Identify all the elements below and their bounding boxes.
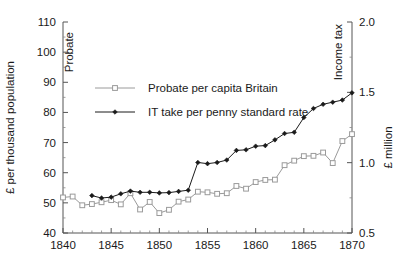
x-tick-label: 1850 (147, 239, 173, 251)
y2-tick-label: 1.0 (359, 157, 375, 169)
data-point-marker (330, 161, 335, 166)
data-point-marker (195, 189, 200, 194)
annotation-0: Probate (63, 32, 75, 72)
y-tick-label: 70 (43, 137, 56, 149)
data-point-marker (215, 191, 220, 196)
data-point-marker (321, 102, 326, 107)
data-point-marker (253, 180, 258, 185)
data-point-marker (253, 144, 258, 149)
data-point-marker (138, 207, 143, 212)
data-point-marker (147, 200, 152, 205)
data-point-marker (244, 148, 249, 153)
data-point-marker (90, 193, 95, 198)
data-point-marker (273, 177, 278, 182)
data-point-marker (234, 184, 239, 189)
y2-tick-label: 0.5 (359, 227, 375, 239)
data-point-marker (205, 161, 210, 166)
data-point-marker (321, 150, 326, 155)
data-point-marker (244, 186, 249, 191)
legend-marker-1 (113, 110, 118, 115)
data-point-marker (157, 211, 162, 216)
data-point-marker (157, 191, 162, 196)
y2-tick-label: 1.5 (359, 86, 375, 98)
data-point-marker (205, 190, 210, 195)
data-point-marker (330, 100, 335, 105)
data-point-marker (340, 139, 345, 144)
y-tick-label: 50 (43, 197, 56, 209)
data-point-marker (186, 188, 191, 193)
x-tick-label: 1855 (195, 239, 221, 251)
data-point-marker (282, 163, 287, 168)
y-tick-label: 80 (43, 106, 56, 118)
legend-label-1: IT take per penny standard rate (148, 106, 308, 118)
data-point-marker (118, 202, 123, 207)
y-tick-label: 110 (38, 16, 56, 28)
data-point-marker (263, 178, 268, 183)
data-point-marker (90, 202, 95, 207)
data-point-marker (186, 197, 191, 202)
y-tick-label: 100 (37, 46, 56, 58)
data-point-marker (301, 154, 306, 159)
data-point-marker (176, 199, 181, 204)
data-point-marker (350, 132, 355, 137)
data-point-marker (263, 143, 268, 148)
x-tick-label: 1860 (243, 239, 269, 251)
data-point-marker (147, 190, 152, 195)
data-point-marker (167, 190, 172, 195)
y-tick-label: 60 (43, 167, 56, 179)
legend-label-0: Probate per capita Britain (148, 82, 278, 94)
line-chart: 1840184518501855186018651870405060708090… (0, 0, 403, 269)
data-point-marker (167, 207, 172, 212)
x-tick-label: 1865 (291, 239, 317, 251)
data-point-marker (119, 192, 124, 197)
data-point-marker (224, 191, 229, 196)
data-point-marker (138, 190, 143, 195)
data-point-marker (196, 160, 201, 165)
x-tick-label: 1840 (50, 239, 76, 251)
data-point-marker (61, 195, 66, 200)
x-tick-label: 1870 (339, 239, 365, 251)
data-point-marker (292, 158, 297, 163)
series-line-0 (63, 134, 352, 213)
y2-tick-label: 2.0 (359, 16, 375, 28)
legend-marker-0 (113, 86, 118, 91)
data-point-marker (80, 203, 85, 208)
data-point-marker (176, 189, 181, 194)
data-point-marker (311, 153, 316, 158)
y-axis-right-title: £ million (382, 126, 394, 168)
data-point-marker (70, 194, 75, 199)
x-tick-label: 1845 (98, 239, 124, 251)
chart-figure: 1840184518501855186018651870405060708090… (0, 0, 403, 269)
data-point-marker (215, 160, 220, 165)
annotation-1: Income tax (332, 24, 344, 80)
y-tick-label: 40 (43, 227, 56, 239)
y-axis-left-title: £ per thousand population (4, 61, 16, 194)
y-tick-label: 90 (43, 76, 56, 88)
